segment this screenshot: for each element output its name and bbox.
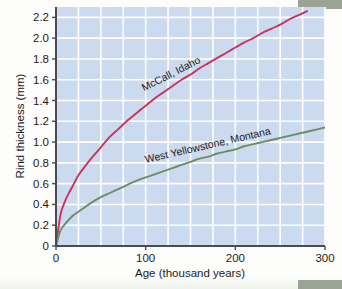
x-axis-ticks: 0100200300 bbox=[53, 246, 335, 264]
y-tick-label: 2.2 bbox=[33, 11, 49, 23]
x-tick-label: 200 bbox=[226, 252, 245, 264]
x-tick-label: 300 bbox=[315, 252, 334, 264]
y-tick-label: 1.4 bbox=[33, 95, 50, 107]
x-tick-label: 100 bbox=[136, 252, 155, 264]
y-axis-title: Rind thickness (mm) bbox=[14, 73, 26, 178]
y-tick-label: 0.8 bbox=[33, 157, 49, 169]
x-axis-title: Age (thousand years) bbox=[135, 267, 245, 279]
rind-thickness-chart: 00.20.40.60.81.01.21.41.61.82.02.2 01002… bbox=[0, 0, 342, 289]
y-tick-label: 1.0 bbox=[33, 136, 49, 148]
y-tick-label: 1.2 bbox=[33, 115, 49, 127]
y-tick-label: 0.4 bbox=[33, 198, 50, 210]
y-tick-label: 2.0 bbox=[33, 32, 49, 44]
y-tick-label: 1.6 bbox=[33, 74, 49, 86]
y-axis-ticks: 00.20.40.60.81.01.21.41.61.82.02.2 bbox=[33, 11, 56, 252]
y-tick-label: 0.2 bbox=[33, 219, 49, 231]
y-tick-label: 0 bbox=[43, 240, 49, 252]
chart-page: 00.20.40.60.81.01.21.41.61.82.02.2 01002… bbox=[0, 0, 342, 289]
y-tick-label: 1.8 bbox=[33, 53, 49, 65]
y-tick-label: 0.6 bbox=[33, 178, 49, 190]
x-tick-label: 0 bbox=[53, 252, 59, 264]
